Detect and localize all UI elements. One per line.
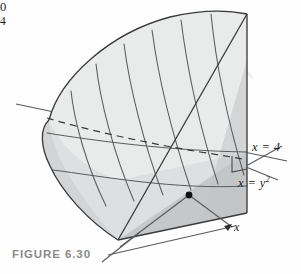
label-x-equals-y-squared-base: x = y	[238, 176, 266, 190]
label-x-equals-y-squared: x = y2	[238, 176, 270, 190]
figure-caption: FIGURE 6.30	[12, 248, 91, 260]
label-x-equals-y-squared-exponent: 2	[266, 175, 270, 184]
figure-illustration	[0, 0, 301, 274]
label-x-axis: x	[234, 221, 239, 233]
figure-container: x = 4 x = y2 x 0 4 FIGURE 6.30	[0, 0, 301, 274]
label-x-equals-4: x = 4	[252, 141, 280, 154]
point-4-marker	[186, 192, 193, 199]
